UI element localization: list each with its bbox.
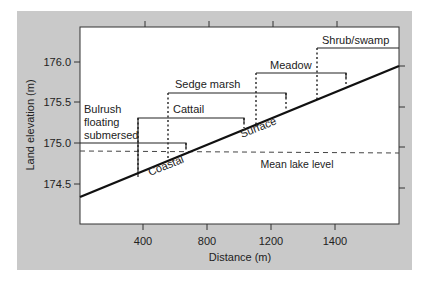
x-axis-label: Distance (m): [209, 251, 271, 263]
y-tick-label: 176.0: [43, 56, 71, 68]
x-tick-label: 400: [134, 235, 152, 247]
chart-figure: 400 800 1200 1400 176.0 175.5 175.0 174.…: [0, 0, 428, 282]
y-axis-label: Land elevation (m): [24, 79, 36, 170]
y-tick-label: 175.0: [43, 137, 71, 149]
zone-label-meadow: Meadow: [270, 59, 312, 71]
zone-label-shrub: Shrub/swamp: [322, 34, 389, 46]
zone-label-sedge: Sedge marsh: [175, 78, 240, 90]
x-tick-label: 1400: [323, 235, 347, 247]
zone-label-bulrush: submersed: [84, 129, 138, 141]
zone-label-bulrush: Bulrush: [84, 103, 121, 115]
zone-label-cattail: Cattail: [173, 103, 204, 115]
plot-area: [80, 27, 399, 224]
mean-lake-level-label: Mean lake level: [261, 158, 334, 170]
y-tick-label: 174.5: [43, 178, 71, 190]
x-tick-label: 1200: [259, 235, 283, 247]
x-tick-label: 800: [198, 235, 216, 247]
zone-label-bulrush: floating: [84, 116, 119, 128]
y-tick-label: 175.5: [43, 96, 71, 108]
